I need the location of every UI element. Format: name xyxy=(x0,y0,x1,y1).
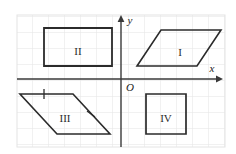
origin-label: O xyxy=(126,81,134,93)
plot-svg: x y O I II III IV xyxy=(0,0,236,154)
coordinate-plane-figure: x y O I II III IV xyxy=(0,0,236,154)
shape-label-I: I xyxy=(178,46,182,58)
x-axis-label: x xyxy=(209,62,215,74)
y-axis-label: y xyxy=(127,14,133,26)
shape-label-III: III xyxy=(60,112,71,124)
shape-label-IV: IV xyxy=(160,112,172,124)
shape-label-II: II xyxy=(74,45,82,57)
